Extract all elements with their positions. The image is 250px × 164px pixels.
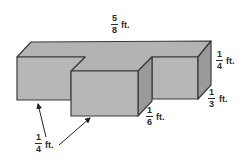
- numerator: 5: [112, 14, 117, 23]
- top-length-unit: ft.: [121, 20, 130, 30]
- top-length-fraction: 5 8: [111, 14, 118, 35]
- right-height-unit: ft.: [226, 56, 235, 66]
- numerator: 1: [147, 106, 152, 115]
- left-arrows-unit: ft.: [45, 140, 54, 150]
- middle-depth-unit: ft.: [156, 112, 165, 122]
- denominator: 6: [147, 118, 152, 127]
- denominator: 8: [112, 26, 117, 35]
- left-arrows-fraction: 1 4: [35, 133, 42, 154]
- denominator: 4: [36, 145, 41, 154]
- right-block-front-face: [152, 57, 198, 99]
- numerator: 1: [209, 88, 214, 97]
- arrow-to-middle-block: [59, 118, 90, 145]
- right-height-fraction: 1 4: [216, 50, 223, 71]
- middle-depth-fraction: 1 6: [146, 106, 153, 127]
- middle-block-front-face: [71, 71, 138, 116]
- right-depth-unit: ft.: [219, 94, 228, 104]
- right-depth-fraction: 1 3: [208, 88, 215, 109]
- numerator: 1: [217, 50, 222, 59]
- denominator: 3: [209, 100, 214, 109]
- prism-diagram: 5 8 ft. 1 4 ft. 1 3 ft. 1 6 ft. 1 4 ft.: [0, 0, 250, 164]
- denominator: 4: [217, 62, 222, 71]
- numerator: 1: [36, 133, 41, 142]
